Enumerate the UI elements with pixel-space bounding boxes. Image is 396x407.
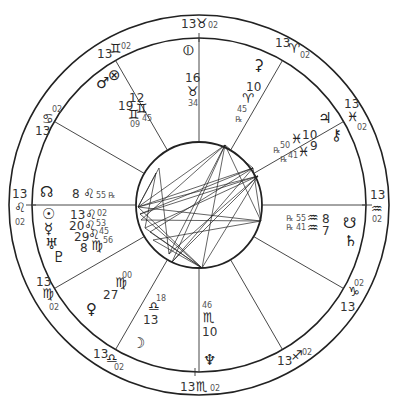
svg-text:16: 16 [185, 71, 200, 85]
svg-text:♒: ♒ [307, 220, 319, 235]
cusp-label-11: 13 ♊ 02 [97, 41, 131, 61]
chiron-icon: ⚷ [331, 126, 342, 144]
moon-icon: ☽ [132, 334, 145, 352]
svg-text:02: 02 [302, 348, 312, 357]
svg-text:℞: ℞ [286, 214, 293, 223]
vertex-icon: ⊗ [108, 66, 121, 84]
svg-text:℞: ℞ [235, 115, 242, 124]
svg-text:♏: ♏ [203, 310, 215, 325]
svg-text:7: 7 [322, 224, 330, 238]
svg-text:56: 56 [103, 236, 113, 245]
saturn-icon: ♄ [344, 232, 357, 250]
venus-icon: ♀ [86, 300, 97, 318]
planet-north-node[interactable]: ☊ 8 ♌ 55 ℞ [40, 183, 115, 201]
planet-neptune[interactable]: 46 ♏ 10 ♆ [202, 301, 217, 369]
cusp-label-asc: 13 ♌ 02 [12, 187, 27, 227]
svg-text:♐: ♐ [291, 348, 303, 363]
svg-text:02: 02 [208, 21, 218, 30]
svg-text:41: 41 [288, 151, 298, 160]
svg-text:02: 02 [15, 218, 25, 227]
svg-text:♍: ♍ [91, 238, 103, 253]
svg-text:13: 13 [181, 17, 196, 31]
svg-text:♑: ♑ [348, 284, 360, 299]
svg-text:18: 18 [156, 294, 166, 303]
svg-text:13: 13 [143, 313, 158, 327]
south-node-icon: ☋ [343, 214, 356, 232]
cusp-label-2: 13 ♍ 02 [36, 275, 59, 312]
svg-text:♍: ♍ [42, 286, 54, 301]
svg-text:02: 02 [114, 363, 124, 372]
svg-text:♈: ♈ [242, 91, 254, 106]
svg-text:55: 55 [96, 191, 106, 200]
planet-venus[interactable]: ♀ 27 ♍ 00 [86, 271, 132, 318]
svg-text:02: 02 [372, 215, 382, 224]
svg-text:46: 46 [202, 301, 212, 310]
svg-text:13: 13 [180, 380, 195, 394]
cusp-label-6: 02 ♑ 13 [340, 279, 364, 314]
cusp-label-ic: 13 ♏ 02 [180, 379, 220, 394]
ceres-icon: ⚳ [253, 56, 264, 74]
astrology-chart-wheel: 13 ♌ 02 13 ♉ 02 13 ♒ 02 13 ♏ 02 13 ♊ 02 … [0, 0, 396, 407]
svg-text:♊: ♊ [110, 41, 122, 56]
planet-moon[interactable]: ☽ 13 ♎ 18 [132, 294, 166, 352]
svg-text:8: 8 [72, 187, 80, 201]
svg-text:13: 13 [340, 300, 355, 314]
svg-text:♓: ♓ [347, 109, 359, 124]
svg-text:50: 50 [280, 141, 290, 150]
svg-text:55: 55 [296, 214, 306, 223]
house-cusp-lines [33, 38, 365, 372]
neptune-icon: ♆ [203, 351, 216, 369]
svg-text:10: 10 [202, 325, 217, 339]
svg-text:02: 02 [210, 384, 220, 393]
cusp-label-dsc: 13 ♒ 02 [370, 188, 385, 224]
north-node-icon: ☊ [40, 183, 53, 201]
svg-text:℞: ℞ [286, 223, 293, 232]
svg-text:45: 45 [142, 114, 152, 123]
svg-text:13: 13 [12, 187, 27, 201]
svg-text:13: 13 [370, 188, 385, 202]
planet-ceres[interactable]: ⚳ 10 ♈ 45 ℞ [235, 56, 264, 124]
svg-text:♌: ♌ [14, 200, 26, 215]
svg-text:℞: ℞ [280, 155, 287, 164]
svg-text:♈: ♈ [288, 41, 300, 56]
svg-text:09: 09 [130, 120, 140, 129]
svg-text:♉: ♉ [196, 16, 208, 31]
svg-text:45: 45 [237, 105, 247, 114]
aspect-circle [136, 142, 262, 268]
svg-text:♒: ♒ [371, 201, 383, 216]
svg-text:34: 34 [188, 99, 198, 108]
svg-text:♉: ♉ [187, 84, 199, 99]
part-of-fortune-icon: ⦶ [183, 41, 194, 59]
cusp-label-5: 13 ♐ 02 [277, 348, 312, 368]
svg-text:℞: ℞ [108, 191, 115, 200]
svg-text:27: 27 [103, 288, 118, 302]
svg-text:9: 9 [310, 139, 318, 153]
svg-text:8: 8 [80, 241, 88, 255]
svg-text:02: 02 [300, 51, 310, 60]
cusp-label-12: 02 ♋ 13 [35, 105, 62, 138]
point-part-of-fortune[interactable]: ⦶ 16 ♉ 34 [183, 41, 200, 108]
svg-text:45: 45 [99, 227, 109, 236]
pluto-icon: ♇ [52, 248, 65, 266]
svg-text:13: 13 [35, 124, 50, 138]
svg-text:02: 02 [357, 123, 367, 132]
cusp-label-mc: 13 ♉ 02 [181, 16, 218, 31]
planet-pluto[interactable]: ♇ 8 ♍ 56 [52, 236, 113, 266]
svg-text:13: 13 [277, 354, 292, 368]
cusp-label-3: 13 ♎ 02 [93, 347, 124, 372]
jupiter-icon: ♃ [318, 109, 331, 127]
svg-text:02: 02 [49, 303, 59, 312]
svg-text:00: 00 [122, 271, 132, 280]
svg-text:02: 02 [121, 42, 131, 51]
svg-text:♌: ♌ [83, 186, 95, 201]
svg-text:41: 41 [296, 223, 306, 232]
cusp-label-8: 13 ♓ 02 [344, 97, 367, 132]
svg-text:♓: ♓ [298, 144, 310, 159]
svg-text:02: 02 [97, 209, 107, 218]
svg-text:♏: ♏ [196, 379, 208, 394]
